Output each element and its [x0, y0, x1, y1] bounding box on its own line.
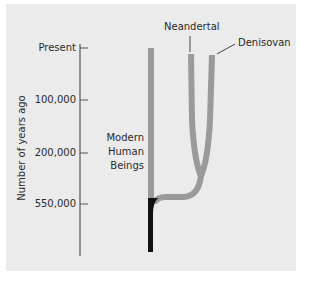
- denisovan-lineage: [201, 55, 212, 176]
- archaic-stem-branch: [154, 175, 201, 203]
- modern-label-line-2: Human: [84, 145, 144, 159]
- tick-label-100000: 100,000: [12, 94, 76, 106]
- ancestral-lineage: [148, 198, 158, 252]
- tick-label-550000: 550,000: [12, 198, 76, 210]
- tick-label-200000: 200,000: [12, 147, 76, 159]
- modern-label-line-3: Beings: [84, 159, 144, 173]
- modern-label-line-1: Modern: [84, 131, 144, 145]
- neandertal-lineage: [191, 54, 201, 176]
- modern-human-lineage: [148, 48, 154, 200]
- denisovan-leader-line: [217, 44, 235, 54]
- tick-label-present: Present: [12, 42, 76, 54]
- neandertal-label: Neandertal: [164, 21, 220, 33]
- modern-human-label: Modern Human Beings: [84, 131, 144, 173]
- human-lineage-figure: Number of years ago Present 100,000 200,…: [0, 0, 310, 281]
- denisovan-label: Denisovan: [238, 37, 291, 49]
